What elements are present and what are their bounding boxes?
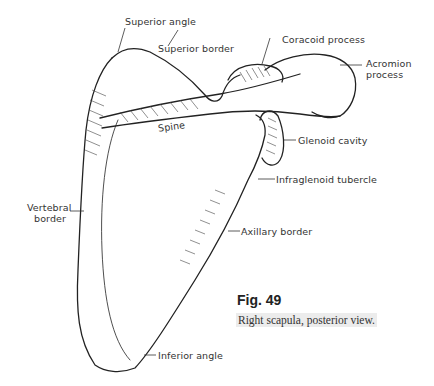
label-infraglenoid-tubercle: Infraglenoid tubercle xyxy=(276,174,377,185)
label-inferior-angle: Inferior angle xyxy=(158,350,223,361)
label-vertebral-line2: border xyxy=(34,213,66,224)
leader-superior-angle xyxy=(118,28,125,52)
label-acromion-line1: Acromion xyxy=(366,58,412,69)
label-vertebral-line1: Vertebral xyxy=(27,202,71,213)
glenoid-outline xyxy=(260,111,284,165)
figure-caption: Right scapula, posterior view. xyxy=(236,313,377,327)
leader-coracoid xyxy=(262,38,270,64)
figure-number: Fig. 49 xyxy=(237,292,281,308)
scapula-figure: Superior angle Superior border Coracoid … xyxy=(0,0,434,386)
label-axillary-border: Axillary border xyxy=(241,226,312,237)
label-superior-border: Superior border xyxy=(158,43,234,54)
inner-ridge xyxy=(102,120,130,360)
label-coracoid-process: Coracoid process xyxy=(282,34,365,45)
label-superior-angle: Superior angle xyxy=(125,16,196,27)
acromion-outline xyxy=(265,54,356,117)
label-acromion-line2: process xyxy=(366,69,403,80)
label-glenoid-cavity: Glenoid cavity xyxy=(298,135,367,146)
